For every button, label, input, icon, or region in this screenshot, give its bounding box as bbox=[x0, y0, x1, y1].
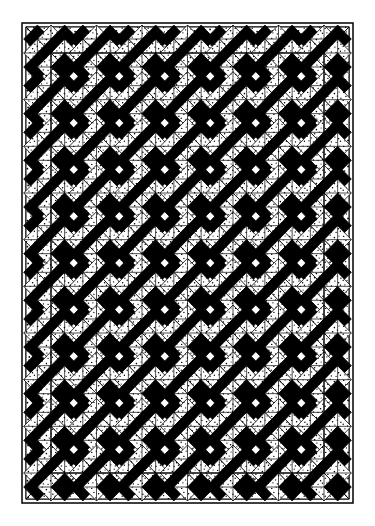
block-grid bbox=[24, 25, 352, 501]
quilt-pattern-diagram bbox=[0, 0, 375, 526]
quilt-drawing-canvas bbox=[0, 0, 375, 526]
quilt-center-field bbox=[24, 25, 352, 501]
